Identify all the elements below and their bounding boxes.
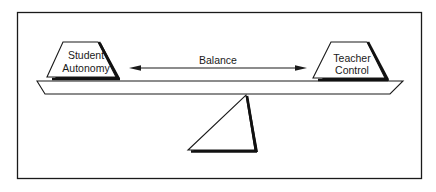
left-weight-label-line2: Autonomy <box>62 62 110 74</box>
left-weight-label-line1: Student <box>68 49 104 61</box>
right-weight-label-line2: Control <box>335 64 369 76</box>
balance-diagram: Student Autonomy Teacher Control Balance <box>0 0 436 192</box>
diagram-frame <box>18 13 422 179</box>
balance-beam <box>37 81 403 94</box>
right-weight-label-line1: Teacher <box>333 52 371 64</box>
balance-label: Balance <box>199 54 237 66</box>
